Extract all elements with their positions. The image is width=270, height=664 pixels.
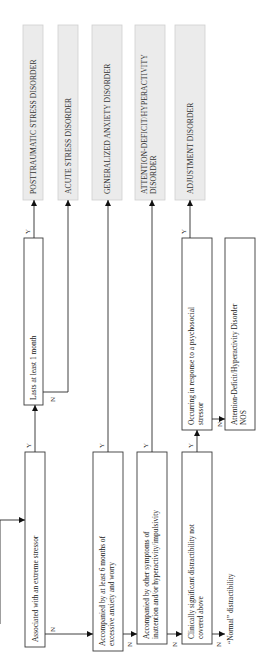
decision-psychosocial-label-1: Occurring in response to a psychosocial xyxy=(187,307,196,425)
decision-psychosocial-label-2: stressor xyxy=(196,402,205,425)
decision-extreme-stressor: Associated with an extreme stressor xyxy=(25,452,45,647)
outcome-asd-label: ACUTE STRESS DISORDER xyxy=(64,97,73,194)
label-no-clinically: N xyxy=(215,642,223,647)
decision-six-months-anxiety: Accompanied by at least 6 months of exce… xyxy=(93,452,123,651)
connector-lasts-no xyxy=(43,200,71,392)
outcome-adjustment: ADJUSTMENT DISORDER xyxy=(175,25,205,200)
outcome-acute-stress: ACUTE STRESS DISORDER xyxy=(58,25,78,200)
flowchart: POSTTRAUMATIC STRESS DISORDER ACUTE STRE… xyxy=(0,0,270,664)
outcome-adhd-nos-label-1: Attention-Deficit/Hyperactivity Disorder xyxy=(230,303,239,425)
label-yes-clinically: Y xyxy=(187,443,195,448)
decision-lasts-one-month: Lasts at least 1 month xyxy=(24,238,43,405)
label-no-psychosocial: N xyxy=(216,422,224,427)
outcome-ptsd-label: POSTTRAUMATIC STRESS DISORDER xyxy=(29,59,38,194)
connector-clinically-no xyxy=(212,631,225,637)
decision-other-symptoms: Accompanied by other symptoms of inatten… xyxy=(137,452,167,644)
decision-six-months-label-2: excessive anxiety and worry xyxy=(107,562,116,646)
decision-other-symptoms-label-1: Accompanied by other symptoms of xyxy=(142,531,151,639)
outcome-gad-label: GENERALIZED ANXIETY DISORDER xyxy=(103,63,112,194)
decision-clinically-significant-label-1: Clinically significant distractibility n… xyxy=(187,523,196,639)
outcome-adhd: ATTENTION-DEFICIT/HYPERACTIVITY DISORDER xyxy=(135,25,165,200)
decision-other-symptoms-label-2: inattention and/or hyperactivity/impulsi… xyxy=(151,510,160,639)
outcome-adhd-nos: Attention-Deficit/Hyperactivity Disorder… xyxy=(225,238,255,430)
decision-extreme-stressor-label: Associated with an extreme stressor xyxy=(31,535,40,642)
label-yes-psychosocial: Y xyxy=(180,229,188,234)
label-no-stressor: N xyxy=(49,627,57,632)
connector-six-months-yes xyxy=(105,200,111,452)
outcome-normal-distractibility: “Normal” distractibility xyxy=(226,573,235,644)
decision-psychosocial-stressor: Occurring in response to a psychosocial … xyxy=(182,238,212,430)
label-no-lasts: N xyxy=(49,397,57,402)
connector-clinically-yes xyxy=(194,430,200,452)
decision-clinically-significant-label-2: covered above xyxy=(196,595,205,639)
outcome-adhd-nos-label-2: NOS xyxy=(239,410,248,425)
label-yes-six-months: Y xyxy=(98,443,106,448)
connector-other-symptoms-no xyxy=(167,631,182,637)
label-no-other-symptoms: N xyxy=(171,642,179,647)
connector-six-months-no xyxy=(123,631,137,637)
label-yes-lasts: Y xyxy=(24,229,32,234)
outcome-gad: GENERALIZED ANXIETY DISORDER xyxy=(92,25,122,200)
decision-six-months-label-1: Accompanied by at least 6 months of xyxy=(98,535,107,646)
outcome-adhd-label-2: DISORDER xyxy=(149,154,158,194)
decision-clinically-significant: Clinically significant distractibility n… xyxy=(182,452,212,644)
outcome-adjustment-label: ADJUSTMENT DISORDER xyxy=(186,102,195,194)
outcome-adhd-label-1: ATTENTION-DEFICIT/HYPERACTIVITY xyxy=(140,54,149,194)
label-yes-stressor: Y xyxy=(25,443,33,448)
connector-other-symptoms-yes xyxy=(149,200,155,452)
label-no-six-months: N xyxy=(126,642,134,647)
outcome-ptsd: POSTTRAUMATIC STRESS DISORDER xyxy=(23,25,43,200)
decision-lasts-one-month-label: Lasts at least 1 month xyxy=(29,335,38,400)
connector-entry xyxy=(0,517,25,624)
label-yes-other-symptoms: Y xyxy=(142,443,150,448)
